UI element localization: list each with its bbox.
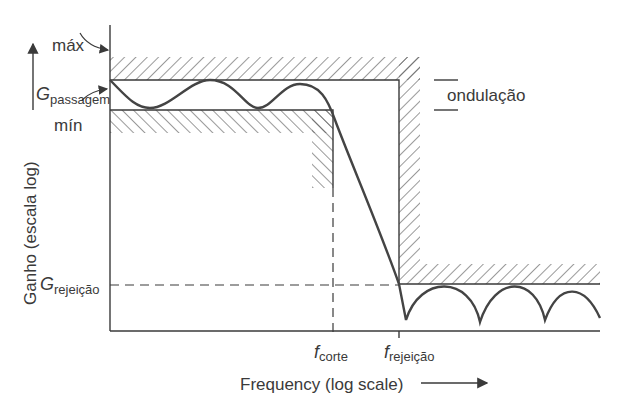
ripple-label: ondulação xyxy=(447,86,525,105)
f-cut-label: fcorte xyxy=(314,342,348,364)
y-axis-title: Ganho (escala log) xyxy=(21,161,40,305)
g-pass-label: Gpassagem xyxy=(36,84,110,107)
spec-boundaries xyxy=(110,80,600,284)
guide-lines xyxy=(110,188,399,336)
max-label: máx xyxy=(52,36,85,55)
min-label: mín xyxy=(54,116,82,135)
max-arrow-icon xyxy=(80,33,108,50)
f-stop-label: frejeição xyxy=(384,342,435,364)
min-gain-forbidden-region xyxy=(110,110,333,188)
filter-spec-diagram: máx mín Gpassagem Grejeição ondulação fc… xyxy=(0,0,620,413)
x-axis-title: Frequency (log scale) xyxy=(240,375,403,394)
g-stop-label: Grejeição xyxy=(40,274,100,297)
